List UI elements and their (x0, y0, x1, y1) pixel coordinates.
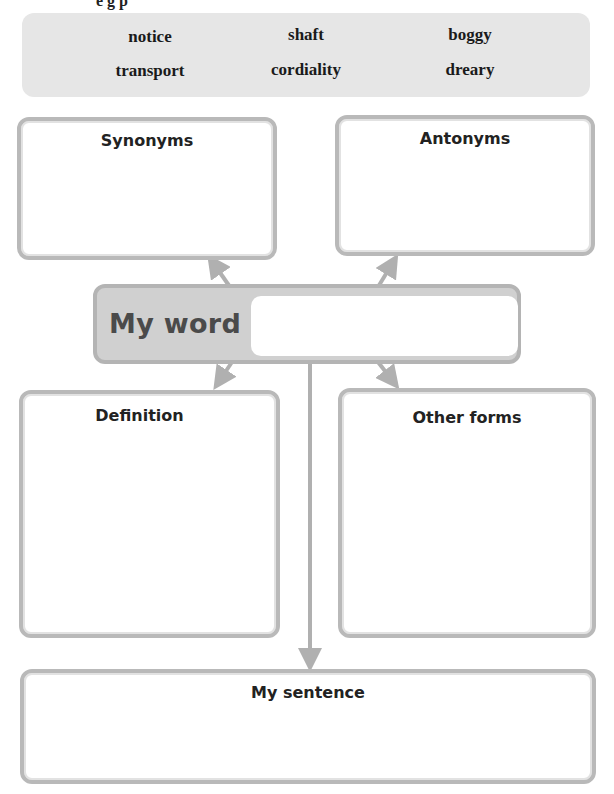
cropped-header-text: e g p (96, 0, 128, 10)
my-sentence-box[interactable]: My sentence (20, 669, 596, 784)
word-bank: notice shaft boggy transport cordiality … (22, 13, 590, 97)
definition-box[interactable]: Definition (19, 390, 280, 638)
my-sentence-label: My sentence (24, 683, 592, 702)
other-forms-label: Other forms (342, 408, 592, 427)
my-word-label: My word (109, 308, 241, 339)
word-bank-item: shaft (288, 25, 324, 45)
word-bank-item: dreary (446, 60, 495, 80)
synonyms-box[interactable]: Synonyms (17, 117, 277, 260)
word-bank-item: transport (116, 61, 185, 81)
my-word-input[interactable] (251, 296, 518, 356)
arrow-to-definition (220, 362, 232, 380)
synonyms-label: Synonyms (21, 131, 273, 150)
word-bank-item: boggy (448, 25, 491, 45)
other-forms-box[interactable]: Other forms (338, 388, 596, 638)
word-bank-item: cordiality (271, 60, 341, 80)
antonyms-label: Antonyms (339, 129, 591, 148)
antonyms-box[interactable]: Antonyms (335, 115, 595, 256)
my-word-panel: My word (93, 284, 521, 364)
definition-label: Definition (3, 406, 276, 425)
word-bank-item: notice (128, 27, 171, 47)
arrow-to-other-forms (378, 362, 392, 380)
